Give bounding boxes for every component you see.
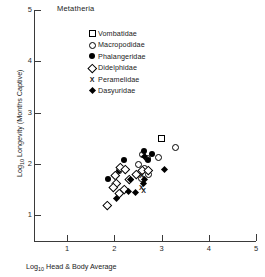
y-tick-mark bbox=[35, 10, 41, 11]
x-tick-label: 3 bbox=[156, 245, 168, 253]
x-axis-title: Log10 Head & Body Average bbox=[26, 262, 117, 272]
legend-marker bbox=[86, 88, 98, 93]
y-axis-line bbox=[34, 10, 35, 241]
y-tick-mark bbox=[35, 61, 41, 62]
legend-label: Vombatidae bbox=[98, 30, 137, 37]
x-tick-label: 1 bbox=[61, 245, 73, 253]
data-point bbox=[105, 176, 111, 182]
legend-label: Didelphidae bbox=[98, 64, 137, 71]
legend-marker bbox=[86, 42, 98, 49]
y-tick-mark bbox=[35, 113, 41, 114]
x-tick-label: 4 bbox=[203, 245, 215, 253]
x-tick-mark bbox=[114, 235, 115, 241]
legend-item-didelphidae[interactable]: Didelphidae bbox=[86, 62, 146, 73]
data-point: X bbox=[140, 187, 147, 194]
x-tick-label: 2 bbox=[108, 245, 120, 253]
legend-item-vombatidae[interactable]: Vombatidae bbox=[86, 28, 146, 39]
data-point bbox=[121, 157, 127, 163]
legend-item-dasyuridae[interactable]: Dasyuridae bbox=[86, 85, 146, 96]
chart-legend: VombatidaeMacropodidaePhalangeridaeDidel… bbox=[86, 28, 146, 96]
y-tick-mark bbox=[35, 215, 41, 216]
legend-marker bbox=[86, 65, 98, 72]
y-tick-label: 4 bbox=[22, 57, 32, 65]
marker-open-diamond bbox=[87, 63, 96, 72]
marker-filled-diamond bbox=[88, 87, 95, 94]
marker-open-circle bbox=[89, 42, 96, 49]
data-point bbox=[125, 188, 132, 195]
legend-marker bbox=[86, 30, 98, 37]
marker-filled-circle bbox=[89, 53, 95, 59]
y-tick-label: 3 bbox=[22, 109, 32, 117]
y-tick-label: 2 bbox=[22, 160, 32, 168]
marker-x: X bbox=[89, 76, 96, 83]
legend-item-peramelidae[interactable]: XPeramelidae bbox=[86, 74, 146, 85]
legend-marker: X bbox=[86, 76, 98, 83]
legend-label: Phalangeridae bbox=[98, 53, 146, 60]
x-axis-line bbox=[34, 241, 256, 242]
x-tick-mark bbox=[209, 235, 210, 241]
x-axis-title-prefix: Log bbox=[26, 262, 38, 271]
legend-label: Peramelidae bbox=[98, 76, 139, 83]
y-axis-title: Log10 Longevity (Months Captive) bbox=[15, 48, 25, 198]
x-tick-label: 5 bbox=[250, 245, 262, 253]
data-point bbox=[158, 135, 165, 142]
y-tick-mark bbox=[35, 164, 41, 165]
x-tick-mark bbox=[162, 235, 163, 241]
legend-item-phalangeridae[interactable]: Phalangeridae bbox=[86, 51, 146, 62]
legend-item-macropodidae[interactable]: Macropodidae bbox=[86, 39, 146, 50]
x-tick-mark bbox=[67, 235, 68, 241]
data-point bbox=[103, 200, 112, 209]
data-point bbox=[149, 151, 155, 157]
x-axis-title-rest: Head & Body Average bbox=[44, 262, 117, 271]
y-tick-label: 5 bbox=[22, 6, 32, 14]
legend-marker bbox=[86, 53, 98, 59]
marker-open-square bbox=[89, 30, 96, 37]
scatter-plot-figure: Metatheria Log10 Head & Body Average Log… bbox=[0, 0, 265, 277]
legend-label: Dasyuridae bbox=[98, 87, 135, 94]
data-point bbox=[172, 144, 179, 151]
chart-title: Metatheria bbox=[57, 4, 94, 13]
y-tick-label: 1 bbox=[22, 211, 32, 219]
data-point bbox=[161, 166, 168, 173]
legend-label: Macropodidae bbox=[98, 41, 145, 48]
data-point bbox=[155, 154, 162, 161]
x-tick-mark bbox=[256, 235, 257, 241]
